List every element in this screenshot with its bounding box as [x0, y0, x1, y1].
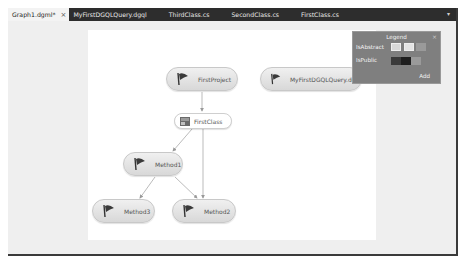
node-firstproject[interactable]: FirstProject	[166, 67, 238, 91]
tab-firstclass[interactable]: FirstClass.cs	[297, 8, 343, 21]
tab-thirdclass[interactable]: ThirdClass.cs	[165, 8, 214, 21]
tab-dropdown-icon[interactable]: ▾	[447, 10, 450, 17]
node-label: Method3	[124, 208, 150, 215]
node-label: Method1	[155, 161, 181, 168]
legend-swatch-ispublic-1[interactable]	[391, 57, 401, 65]
tab-label: MyFirstDGQLQuery.dgql	[73, 11, 146, 18]
legend-panel: Legend × IsAbstract IsPublic Add	[352, 31, 441, 84]
tab-label: SecondClass.cs	[231, 11, 279, 18]
legend-swatch-isabstract-1[interactable]	[391, 43, 401, 51]
flag-icon	[182, 204, 196, 218]
flag-icon	[133, 157, 147, 171]
flag-icon	[270, 72, 282, 86]
node-firstclass[interactable]: FirstClass	[174, 113, 232, 129]
tab-graph1-dgml[interactable]: Graph1.dgml* ×	[8, 8, 69, 21]
legend-swatch-ispublic-2[interactable]	[401, 57, 411, 65]
legend-swatch-ispublic-3[interactable]	[411, 57, 421, 65]
document-window: Graph1.dgml* × MyFirstDGQLQuery.dgql Thi…	[8, 8, 458, 256]
node-label: FirstProject	[198, 76, 231, 83]
tab-myfirstdgqlquery[interactable]: MyFirstDGQLQuery.dgql	[69, 8, 150, 21]
tab-label: FirstClass.cs	[301, 11, 339, 18]
node-label: Method2	[204, 208, 230, 215]
tab-secondclass[interactable]: SecondClass.cs	[227, 8, 283, 21]
class-icon	[180, 117, 190, 126]
legend-swatch-isabstract-3[interactable]	[416, 43, 426, 51]
node-myfirstdgqlquery[interactable]: MyFirstDGQLQuery.dgql	[260, 67, 362, 91]
node-method3[interactable]: Method3	[92, 199, 155, 223]
node-label: MyFirstDGQLQuery.dgql	[290, 76, 361, 83]
legend-add-button[interactable]: Add	[419, 73, 430, 79]
graph-canvas[interactable]: FirstProject MyFirstDGQLQuery.dgql First…	[88, 30, 376, 240]
tab-label: Graph1.dgml*	[12, 11, 56, 18]
legend-row-isabstract[interactable]: IsAbstract	[356, 44, 384, 50]
close-tab-icon[interactable]: ×	[61, 11, 67, 19]
flag-icon	[176, 72, 190, 86]
legend-close-icon[interactable]: ×	[432, 33, 437, 40]
flag-icon	[102, 204, 116, 218]
legend-swatch-isabstract-2[interactable]	[404, 43, 414, 51]
legend-row-ispublic[interactable]: IsPublic	[356, 57, 377, 63]
node-method1[interactable]: Method1	[123, 152, 183, 176]
node-label: FirstClass	[194, 118, 222, 125]
tab-strip: Graph1.dgml* × MyFirstDGQLQuery.dgql Thi…	[8, 8, 456, 21]
tab-label: ThirdClass.cs	[169, 11, 210, 18]
graph-surface[interactable]: FirstProject MyFirstDGQLQuery.dgql First…	[8, 21, 456, 254]
legend-title: Legend	[353, 34, 440, 40]
node-method2[interactable]: Method2	[172, 199, 236, 223]
